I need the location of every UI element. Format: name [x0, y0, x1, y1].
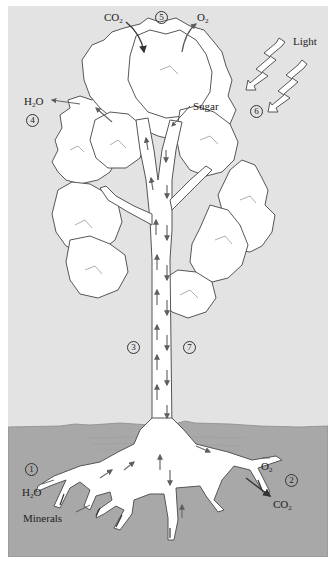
- diagram-frame: CO2 5 O2 Light H2O 4 Sugar 6 3 7 1 O2 2 …: [8, 6, 328, 557]
- h2o-root-label: H2O: [22, 487, 41, 500]
- step-marker-4: 4: [26, 114, 39, 127]
- light-label: Light: [293, 36, 317, 47]
- sugar-label: Sugar: [193, 101, 219, 112]
- step-marker-2: 2: [285, 474, 298, 487]
- co2-root-label: CO2: [273, 499, 292, 512]
- o2-root-label: O2: [261, 461, 272, 474]
- step-marker-3: 3: [127, 341, 140, 354]
- co2-top-label: CO2: [104, 12, 123, 25]
- o2-top-label: O2: [197, 12, 208, 25]
- step-marker-7: 7: [183, 341, 196, 354]
- step-marker-5: 5: [155, 11, 168, 24]
- minerals-label: Minerals: [23, 513, 62, 524]
- tree-illustration: [8, 6, 328, 557]
- step-marker-6: 6: [250, 105, 263, 118]
- step-marker-1: 1: [25, 463, 38, 476]
- h2o-leaf-label: H2O: [24, 96, 43, 109]
